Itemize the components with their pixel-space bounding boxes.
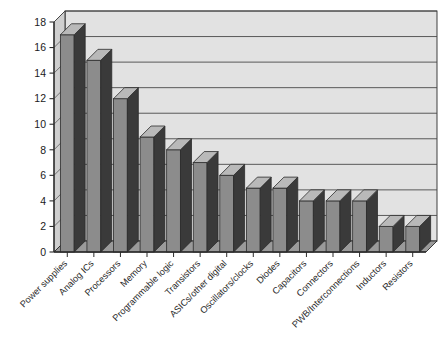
bar-side-face bbox=[180, 139, 191, 252]
bar-front-face bbox=[379, 226, 393, 252]
bar-side-face bbox=[260, 177, 271, 252]
bar-front-face bbox=[87, 60, 101, 252]
bar-front-face bbox=[406, 226, 420, 252]
bar-group bbox=[140, 126, 165, 252]
bar-group bbox=[300, 190, 325, 252]
y-axis-tick-label: 12 bbox=[34, 92, 46, 104]
y-axis-tick-label: 14 bbox=[34, 67, 46, 79]
bar-side-face bbox=[101, 49, 112, 252]
bar-side-face bbox=[207, 152, 218, 252]
bar-front-face bbox=[273, 188, 287, 252]
chart-canvas: 024681012141618 Power suppliesAnalog ICs… bbox=[0, 0, 439, 349]
bar-side-face bbox=[74, 24, 85, 252]
bar-group bbox=[193, 152, 218, 252]
bar-side-face bbox=[234, 164, 245, 252]
bar-group bbox=[353, 190, 378, 252]
y-axis-tick-label: 2 bbox=[40, 220, 46, 232]
bar-front-face bbox=[167, 150, 181, 252]
bar-group bbox=[246, 177, 271, 252]
bar-front-face bbox=[300, 201, 314, 252]
y-axis-tick-label: 6 bbox=[40, 169, 46, 181]
bar-side-face bbox=[287, 177, 298, 252]
bar-group bbox=[60, 24, 85, 252]
bar-front-face bbox=[246, 188, 260, 252]
bar-group bbox=[326, 190, 351, 252]
y-axis-tick-label: 10 bbox=[34, 118, 46, 130]
bar-side-face bbox=[154, 126, 165, 252]
bar-front-face bbox=[353, 201, 367, 252]
bar-group bbox=[114, 88, 139, 252]
ytick-labels-layer: 024681012141618 bbox=[34, 16, 46, 258]
y-axis-tick-label: 18 bbox=[34, 16, 46, 28]
x-axis-category-label: Power supplies bbox=[18, 258, 69, 309]
y-axis-tick-label: 4 bbox=[40, 195, 46, 207]
bar-front-face bbox=[114, 99, 128, 252]
bar-chart: 024681012141618 Power suppliesAnalog ICs… bbox=[0, 0, 439, 349]
y-axis-tick-label: 8 bbox=[40, 144, 46, 156]
bar-front-face bbox=[220, 175, 234, 252]
bar-side-face bbox=[127, 88, 138, 252]
bar-front-face bbox=[60, 35, 74, 252]
bar-group bbox=[220, 164, 245, 252]
y-axis-tick-label: 16 bbox=[34, 41, 46, 53]
bar-front-face bbox=[140, 137, 154, 252]
bar-group bbox=[87, 49, 112, 252]
y-axis-tick-label: 0 bbox=[40, 246, 46, 258]
bar-front-face bbox=[326, 201, 340, 252]
bar-group bbox=[273, 177, 298, 252]
xtick-labels-layer: Power suppliesAnalog ICsProcessorsMemory… bbox=[18, 258, 415, 330]
bar-front-face bbox=[193, 163, 207, 252]
bar-group bbox=[167, 139, 192, 252]
